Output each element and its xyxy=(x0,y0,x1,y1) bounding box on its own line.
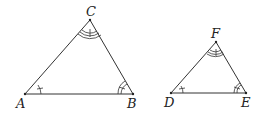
label-b: B xyxy=(126,96,137,111)
label-d: D xyxy=(163,95,175,110)
vertex-e-dot xyxy=(245,92,247,94)
label-e: E xyxy=(240,95,251,110)
vertex-d-dot xyxy=(170,92,172,94)
label-f: F xyxy=(210,26,221,41)
angle-d-mark xyxy=(179,86,185,93)
triangle-def-edges xyxy=(171,42,246,93)
angle-e-mark xyxy=(234,83,241,93)
angle-a-mark xyxy=(37,85,43,94)
angle-f-mark xyxy=(207,49,224,57)
triangle-def xyxy=(170,41,247,94)
angle-b-mark xyxy=(118,81,127,94)
triangle-abc xyxy=(24,19,134,95)
similar-triangles-diagram: C A B F D E xyxy=(0,0,262,114)
label-a: A xyxy=(15,96,25,111)
vertex-b-dot xyxy=(132,93,134,95)
vertex-a-dot xyxy=(24,93,26,95)
vertex-c-dot xyxy=(89,19,91,21)
vertex-f-dot xyxy=(215,41,217,43)
label-c: C xyxy=(86,4,96,19)
triangle-abc-edges xyxy=(25,20,133,94)
